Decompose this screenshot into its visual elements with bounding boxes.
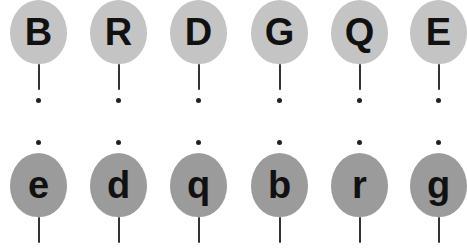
lower-balloon-5[interactable]: g xyxy=(410,153,467,217)
upper-balloon-3[interactable]: G xyxy=(251,0,308,64)
balloon-string xyxy=(198,64,200,90)
balloon-string xyxy=(118,64,120,90)
balloon-string xyxy=(359,64,361,90)
balloon-string xyxy=(198,217,200,243)
upper-match-dot-5[interactable] xyxy=(436,98,441,103)
lower-match-dot-5[interactable] xyxy=(436,140,441,145)
upper-balloon-5[interactable]: E xyxy=(410,0,467,64)
lower-letter: q xyxy=(187,166,210,204)
balloon-string xyxy=(438,64,440,90)
upper-letter: G xyxy=(265,13,295,51)
upper-letter: E xyxy=(426,13,451,51)
balloon-string xyxy=(118,217,120,243)
lower-match-dot-4[interactable] xyxy=(357,140,362,145)
upper-match-dot-2[interactable] xyxy=(196,98,201,103)
lower-match-dot-2[interactable] xyxy=(196,140,201,145)
upper-match-dot-3[interactable] xyxy=(277,98,282,103)
lower-balloon-1[interactable]: d xyxy=(90,153,147,217)
upper-balloon-1[interactable]: R xyxy=(90,0,147,64)
upper-letter: Q xyxy=(345,13,375,51)
lower-letter: g xyxy=(427,166,450,204)
lower-balloon-3[interactable]: b xyxy=(251,153,308,217)
upper-match-dot-0[interactable] xyxy=(36,98,41,103)
balloon-string xyxy=(38,64,40,90)
balloon-string xyxy=(279,217,281,243)
upper-balloon-4[interactable]: Q xyxy=(331,0,388,64)
balloon-string xyxy=(38,217,40,243)
lower-balloon-2[interactable]: q xyxy=(170,153,227,217)
balloon-string xyxy=(438,217,440,243)
lower-balloon-0[interactable]: e xyxy=(10,153,67,217)
upper-match-dot-1[interactable] xyxy=(116,98,121,103)
upper-balloon-2[interactable]: D xyxy=(170,0,227,64)
lower-match-dot-1[interactable] xyxy=(116,140,121,145)
upper-letter: D xyxy=(185,13,212,51)
lower-match-dot-0[interactable] xyxy=(36,140,41,145)
lower-balloon-4[interactable]: r xyxy=(331,153,388,217)
upper-letter: B xyxy=(25,13,52,51)
upper-letter: R xyxy=(105,13,132,51)
upper-match-dot-4[interactable] xyxy=(357,98,362,103)
lower-letter: e xyxy=(28,166,49,204)
lower-match-dot-3[interactable] xyxy=(277,140,282,145)
lower-letter: b xyxy=(268,166,291,204)
lower-letter: r xyxy=(352,166,367,204)
balloon-string xyxy=(279,64,281,90)
balloon-string xyxy=(359,217,361,243)
upper-balloon-0[interactable]: B xyxy=(10,0,67,64)
lower-letter: d xyxy=(107,166,130,204)
